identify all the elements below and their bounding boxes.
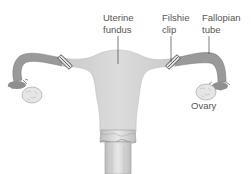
uterus-body (62, 50, 175, 132)
right-ovary-icon (196, 84, 216, 100)
label-uterine-fundus: Uterine fundus (103, 12, 134, 36)
label-filshie-clip: Filshie clip (162, 12, 189, 36)
label-ovary: Ovary (191, 100, 216, 112)
label-fallopian-tube: Fallopian tube (202, 12, 241, 36)
left-ovary-icon (22, 87, 42, 103)
left-fallopian-tube (8, 53, 62, 89)
cervix (100, 130, 136, 174)
